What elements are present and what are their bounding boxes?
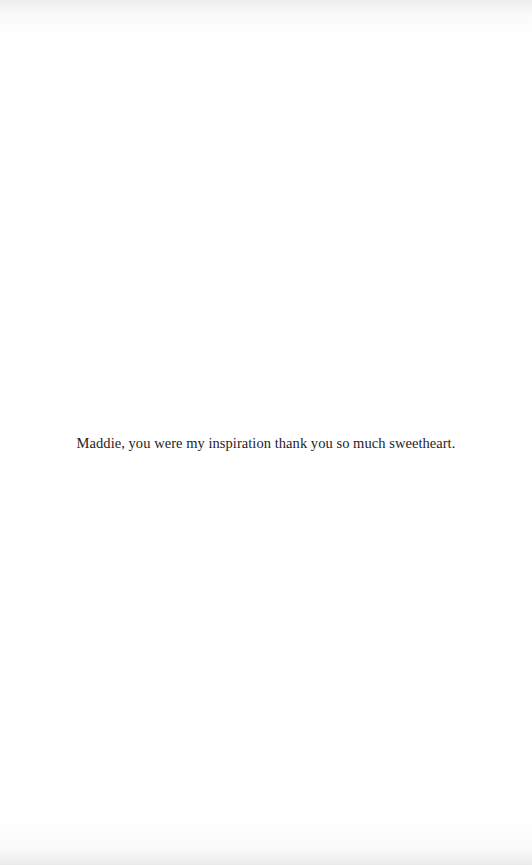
- book-page: Maddie, you were my inspiration thank yo…: [0, 0, 532, 865]
- dedication-text: Maddie, you were my inspiration thank yo…: [0, 434, 532, 452]
